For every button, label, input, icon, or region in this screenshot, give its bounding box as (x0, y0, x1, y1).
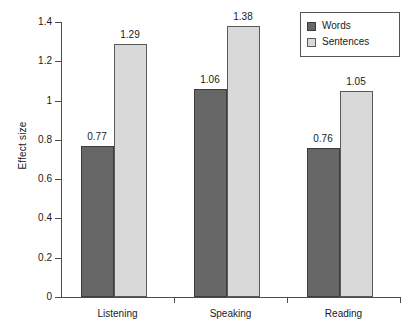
y-axis-tick-label: 1 (0, 96, 52, 106)
y-axis-tick-label: 0.6 (0, 174, 52, 184)
x-axis-tick (400, 297, 401, 303)
y-axis-tick (55, 258, 61, 259)
legend-label-words: Words (322, 21, 351, 31)
y-axis-tick-label-text: 1.4 (6, 17, 52, 27)
legend-swatch-sentences-icon (307, 38, 316, 47)
y-axis-tick-label: 0.2 (0, 253, 52, 263)
bar-listening-sentences (114, 44, 147, 297)
y-axis-tick-label-text: 0.4 (6, 213, 52, 223)
legend-swatch-words-icon (307, 22, 316, 31)
y-axis-tick-label: 0 (0, 292, 52, 302)
y-axis-tick-label-text: 1 (6, 96, 52, 106)
y-axis-tick (55, 297, 61, 298)
bar-reading-words (307, 148, 340, 297)
legend-item-sentences: Sentences (307, 34, 393, 50)
bar-chart: Effect size 00.20.40.60.811.21.4 0.771.2… (0, 0, 413, 333)
bar-reading-sentences (340, 91, 373, 297)
bar-value-label: 1.05 (334, 76, 379, 87)
x-axis-label-speaking: Speaking (174, 308, 287, 319)
x-axis-tick (287, 297, 288, 303)
x-axis-label-reading: Reading (287, 308, 400, 319)
y-axis-line (61, 22, 62, 298)
y-axis-tick-label-text: 0.6 (6, 174, 52, 184)
y-axis-tick-label-text: 0.2 (6, 253, 52, 263)
y-axis-tick (55, 61, 61, 62)
y-axis-tick-label: 0.8 (0, 135, 52, 145)
y-axis-tick-label-text: 0.8 (6, 135, 52, 145)
bar-speaking-sentences (227, 26, 260, 297)
y-axis-tick-label: 1.2 (0, 56, 52, 66)
x-axis-line (61, 297, 400, 298)
bar-listening-words (81, 146, 114, 297)
x-axis-tick (174, 297, 175, 303)
legend-item-words: Words (307, 18, 393, 34)
y-axis-tick (55, 101, 61, 102)
y-axis-tick (55, 218, 61, 219)
y-axis-tick-label-text: 0 (6, 292, 52, 302)
x-axis-label-listening: Listening (61, 308, 174, 319)
bar-value-label: 1.29 (108, 29, 153, 40)
y-axis-tick (55, 179, 61, 180)
y-axis-tick-label: 0.4 (0, 213, 52, 223)
y-axis-tick (55, 140, 61, 141)
legend-label-sentences: Sentences (322, 37, 369, 47)
y-axis-tick-label-text: 1.2 (6, 56, 52, 66)
bar-speaking-words (194, 89, 227, 297)
y-axis-tick (55, 22, 61, 23)
y-axis-tick-label: 1.4 (0, 17, 52, 27)
bar-value-label: 1.38 (221, 11, 266, 22)
legend: Words Sentences (300, 12, 400, 57)
